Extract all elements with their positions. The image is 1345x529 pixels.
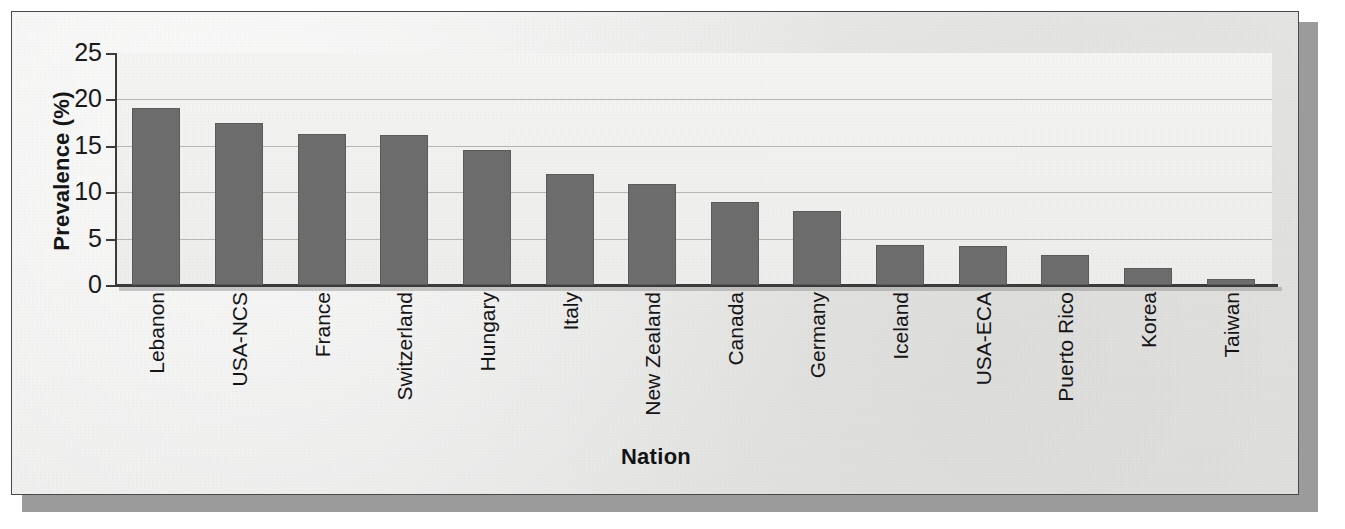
x-tick-label: Germany — [807, 292, 828, 378]
x-label-slot: Korea — [1107, 292, 1190, 422]
x-label-slot: New Zealand — [611, 292, 694, 422]
bar[interactable] — [463, 150, 511, 285]
bar-slot — [611, 53, 694, 285]
x-label-slot: Switzerland — [363, 292, 446, 422]
x-tick-label: New Zealand — [642, 292, 663, 416]
x-label-slot: Taiwan — [1189, 292, 1272, 422]
bar-slot — [446, 53, 529, 285]
x-tick-label: Hungary — [476, 292, 497, 371]
x-tick-label: Taiwan — [1220, 292, 1241, 357]
x-tick-label: Italy — [559, 292, 580, 331]
bar-slot — [776, 53, 859, 285]
bar-slot — [115, 53, 198, 285]
bar[interactable] — [380, 135, 428, 285]
x-axis-title: Nation — [12, 444, 1300, 470]
x-tick-label: Iceland — [890, 292, 911, 360]
x-label-slot: France — [280, 292, 363, 422]
x-tick-label: Lebanon — [146, 292, 167, 374]
bar-chart: Prevalence (%) 0510152025 LebanonUSA-NCS… — [12, 12, 1300, 496]
x-tick-label: USA-NCS — [228, 292, 249, 387]
x-tick-label: Canada — [724, 292, 745, 366]
y-tick-label: 25 — [40, 40, 102, 65]
bar-slot — [1024, 53, 1107, 285]
x-tick-label: Korea — [1138, 292, 1159, 348]
x-label-slot: USA-ECA — [941, 292, 1024, 422]
x-axis-tick-labels: LebanonUSA-NCSFranceSwitzerlandHungaryIt… — [115, 292, 1272, 422]
bar[interactable] — [793, 211, 841, 285]
x-label-slot: Puerto Rico — [1024, 292, 1107, 422]
bar-slot — [198, 53, 281, 285]
bar-slot — [1107, 53, 1190, 285]
x-label-slot: Canada — [694, 292, 777, 422]
x-tick-label: France — [311, 292, 332, 357]
bar[interactable] — [711, 202, 759, 285]
bar-slot — [941, 53, 1024, 285]
y-axis-tick-labels: 0510152025 — [40, 53, 102, 285]
bar-slot — [280, 53, 363, 285]
bar-slot — [528, 53, 611, 285]
bar-slot — [363, 53, 446, 285]
bar[interactable] — [215, 123, 263, 285]
bar-slot — [1189, 53, 1272, 285]
bar[interactable] — [876, 245, 924, 285]
bar[interactable] — [1207, 279, 1255, 285]
bar-slot — [694, 53, 777, 285]
bar-slot — [859, 53, 942, 285]
y-tick-label: 10 — [40, 179, 102, 204]
bar[interactable] — [628, 184, 676, 285]
x-tick-label: Switzerland — [394, 292, 415, 401]
bar[interactable] — [298, 134, 346, 285]
y-tick-label: 20 — [40, 86, 102, 111]
x-label-slot: Italy — [528, 292, 611, 422]
figure-page: Prevalence (%) 0510152025 LebanonUSA-NCS… — [0, 0, 1345, 529]
x-label-slot: USA-NCS — [198, 292, 281, 422]
x-label-slot: Hungary — [446, 292, 529, 422]
figure-frame: Prevalence (%) 0510152025 LebanonUSA-NCS… — [11, 11, 1299, 495]
bar[interactable] — [1041, 255, 1089, 285]
bar[interactable] — [132, 108, 180, 285]
x-tick-label: Puerto Rico — [1055, 292, 1076, 402]
bar[interactable] — [1124, 268, 1172, 285]
x-label-slot: Iceland — [859, 292, 942, 422]
bar[interactable] — [546, 174, 594, 285]
y-tick-label: 5 — [40, 226, 102, 251]
y-tick-label: 0 — [40, 272, 102, 297]
x-label-slot: Germany — [776, 292, 859, 422]
x-label-slot: Lebanon — [115, 292, 198, 422]
y-tick-label: 15 — [40, 133, 102, 158]
bar[interactable] — [959, 246, 1007, 285]
x-tick-label: USA-ECA — [972, 292, 993, 385]
bar-series — [115, 53, 1272, 285]
